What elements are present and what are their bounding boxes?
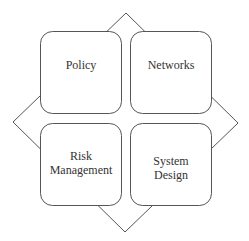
quadrant-label-policy: Policy — [40, 50, 122, 80]
quadrant-label-risk-management: Risk Management — [40, 148, 122, 178]
quadrant-label-system-design: System Design — [130, 153, 212, 183]
quadrant-label-networks: Networks — [130, 50, 212, 80]
diagram-canvas — [0, 0, 249, 241]
